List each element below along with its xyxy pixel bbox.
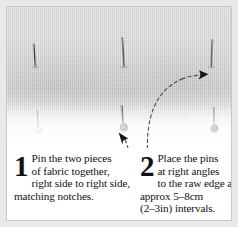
instructional-figure: 1 Pin the two pieces of fabric together,… (0, 0, 238, 227)
step-1-line-3: right side to right side, (14, 177, 132, 190)
step-1-line-4: matching notches. (14, 190, 132, 203)
step-2-caption: 2 Place the pins at right angles to the … (140, 152, 230, 215)
step-1-text: Pin the two pieces of fabric together, r… (14, 152, 132, 202)
captions-area: 1 Pin the two pieces of fabric together,… (7, 148, 231, 220)
leader-line-2 (147, 70, 208, 155)
step-2-line-4: approx 5–8cm (140, 190, 230, 203)
step-1-line-1: Pin the two pieces (14, 152, 132, 165)
step-1-caption: 1 Pin the two pieces of fabric together,… (14, 152, 132, 202)
step-1-line-2: of fabric together, (14, 165, 132, 178)
step-2-line-5: (2–3in) intervals. (140, 202, 230, 215)
figure-card: 1 Pin the two pieces of fabric together,… (6, 6, 232, 221)
step-1-number: 1 (14, 154, 29, 179)
step-2-number: 2 (140, 154, 155, 179)
